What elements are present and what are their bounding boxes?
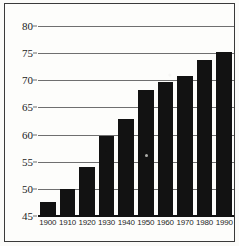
bar-1960 xyxy=(158,82,174,216)
x-axis-tick-label: 1970 xyxy=(175,218,195,234)
y-axis-tick xyxy=(33,107,37,108)
x-axis-line xyxy=(38,215,234,217)
x-axis-tick-label: 1920 xyxy=(77,218,97,234)
x-axis-tick-label: 1940 xyxy=(116,218,136,234)
bar-1910 xyxy=(60,189,76,216)
y-axis-tick-label: 55 xyxy=(22,155,33,167)
bar-1930 xyxy=(99,136,115,216)
y-axis-tick-label: 70 xyxy=(22,74,33,86)
x-axis-tick-label: 1900 xyxy=(38,218,58,234)
bar-1950 xyxy=(138,90,154,216)
y-axis-tick-label: 45 xyxy=(22,210,33,222)
bar-1970 xyxy=(177,76,193,216)
x-axis-tick-label: 1990 xyxy=(214,218,234,234)
y-axis-tick xyxy=(33,80,37,81)
y-axis-tick-label: 65 xyxy=(22,101,33,113)
bar-1990 xyxy=(216,52,232,216)
y-axis-tick xyxy=(33,216,37,217)
plot-area: 4550556065707580 xyxy=(38,26,234,216)
x-axis-tick-label: 1960 xyxy=(156,218,176,234)
chart-figure: 4550556065707580 19001910192019301940195… xyxy=(0,0,239,246)
scan-speck xyxy=(145,154,148,157)
y-axis-tick-label: 80 xyxy=(22,20,33,32)
y-axis-tick-label: 60 xyxy=(22,128,33,140)
y-axis-tick-label: 50 xyxy=(22,183,33,195)
y-axis-tick xyxy=(33,26,37,27)
x-axis-tick-label: 1930 xyxy=(97,218,117,234)
x-axis-tick-label: 1950 xyxy=(136,218,156,234)
x-axis-tick-label: 1910 xyxy=(58,218,78,234)
x-axis-tick-label: 1980 xyxy=(195,218,215,234)
x-axis-tick-labels: 1900191019201930194019501960197019801990 xyxy=(38,218,234,234)
y-axis-tick xyxy=(33,161,37,162)
y-axis-tick xyxy=(33,53,37,54)
y-axis-tick-label: 75 xyxy=(22,47,33,59)
y-axis-tick xyxy=(33,134,37,135)
y-axis-tick xyxy=(33,188,37,189)
bar-1900 xyxy=(40,202,56,216)
bar-1980 xyxy=(197,60,213,216)
bar-series xyxy=(38,26,234,216)
chart-frame: 4550556065707580 19001910192019301940195… xyxy=(4,3,235,242)
bar-1920 xyxy=(79,167,95,216)
bar-1940 xyxy=(118,119,134,216)
